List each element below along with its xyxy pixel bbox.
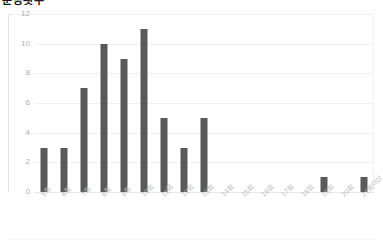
y-axis: 024681012: [8, 14, 34, 192]
y-axis-tick-label: 4: [26, 129, 30, 137]
bar-slot: [314, 14, 334, 192]
bar-slot: [294, 14, 314, 192]
bar[interactable]: [141, 29, 148, 192]
plot-area: [34, 14, 374, 192]
bar-slot: [194, 14, 214, 192]
y-axis-tick-label: 0: [26, 188, 30, 196]
bar-slot: [74, 14, 94, 192]
y-axis-tick-label: 8: [26, 69, 30, 77]
bar-slot: [34, 14, 54, 192]
bar-slot: [114, 14, 134, 192]
y-axis-tick-label: 12: [21, 10, 30, 18]
bar-slot: [274, 14, 294, 192]
bar-slot: [254, 14, 274, 192]
bar-slot: [94, 14, 114, 192]
y-axis-tick-label: 10: [21, 40, 30, 48]
bar-slot: [174, 14, 194, 192]
y-axis-tick-label: 6: [26, 99, 30, 107]
bar-slot: [354, 14, 374, 192]
bar[interactable]: [201, 118, 208, 192]
bar[interactable]: [161, 118, 168, 192]
bar-slot: [154, 14, 174, 192]
bar-slot: [54, 14, 74, 192]
bar-slot: [234, 14, 254, 192]
bar-slot: [134, 14, 154, 192]
bar-slot: [334, 14, 354, 192]
bottom-divider: [8, 239, 374, 240]
bar-slot: [214, 14, 234, 192]
y-axis-tick-label: 2: [26, 158, 30, 166]
bar[interactable]: [121, 59, 128, 193]
bar[interactable]: [81, 88, 88, 192]
bar[interactable]: [101, 44, 108, 192]
x-axis: 5회6회7회8회9회10회11회12회13회14회15회16회17회18회19회…: [34, 193, 374, 243]
chart-title: 운동횟수: [2, 0, 44, 6]
